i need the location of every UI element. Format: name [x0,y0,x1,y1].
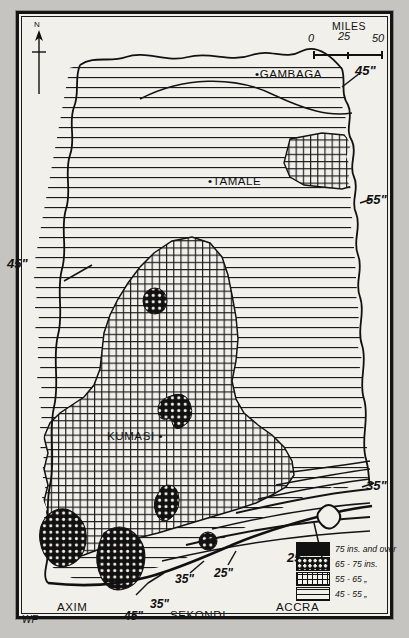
rainfall-map-figure: N MILES 0 25 50 •GAMBAGA •TAMALE KUMASI … [0,0,409,638]
legend-entry-75-and-over: 75 ins. and over [296,541,388,556]
isohyet-label-25-coast: 25" [214,566,233,580]
isohyet-label-45-left: 45" [7,256,28,271]
north-arrow-label: N [34,20,40,29]
legend-swatch-dots [296,557,330,571]
legend-entry-45-55: 45 - 55 „ [296,586,388,601]
isohyet-label-35-sekondi: 35" [150,597,169,611]
isohyet-label-35-coast: 35" [175,572,194,586]
place-label-sekondi: SEKONDI [170,609,226,621]
legend-label-65-75: 65 - 75 ins. [335,559,378,569]
isohyet-label-55-right: 55" [366,192,387,207]
legend-swatch-grid [296,572,330,586]
scale-tick-0: 0 [308,32,314,44]
place-label-kumasi: KUMASI • [107,430,163,442]
isohyet-label-35-right: 35" [366,478,387,493]
legend-swatch-lines [296,587,330,601]
isohyet-label-45-axim: 45" [124,609,143,623]
legend-entry-55-65: 55 - 65 „ [296,571,388,586]
place-label-gambaga: •GAMBAGA [255,68,322,80]
scale-tick-50: 50 [372,32,384,44]
place-label-accra: ACCRA [276,601,319,613]
legend: 75 ins. and over 65 - 75 ins. 55 - 65 „ … [296,541,388,601]
scale-tick-25: 25 [338,30,350,42]
map-artwork [22,17,387,613]
legend-label-45-55: 45 - 55 „ [335,589,367,599]
map-canvas [22,17,387,613]
cartographer-signature: WF [22,614,38,625]
scale-bar: MILES 0 25 50 [308,20,390,60]
legend-entry-65-75: 65 - 75 ins. [296,556,388,571]
place-label-axim: AXIM [57,601,88,613]
legend-label-55-65: 55 - 65 „ [335,574,367,584]
place-label-tamale: •TAMALE [208,175,261,187]
zone-55-65-northeast [284,133,358,189]
legend-swatch-solid [296,542,330,556]
isohyet-label-45-top-right: 45" [355,63,376,78]
north-arrow: N [28,20,50,96]
legend-label-75-and-over: 75 ins. and over [335,544,396,554]
